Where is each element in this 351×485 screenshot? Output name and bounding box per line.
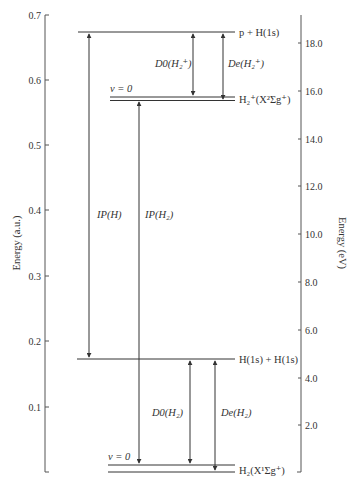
right-tick-18: 18.0 — [305, 38, 323, 49]
label-IP-H2: IP(H₂) — [144, 209, 174, 221]
label-H2plus: H₂⁺(X²Σg⁺) — [239, 94, 291, 106]
label-De-H2: De(H₂) — [220, 407, 252, 419]
right-tick-4: 4.0 — [305, 373, 318, 384]
left-tick-0.3: 0.3 — [29, 271, 42, 282]
right-tick-10: 10.0 — [305, 229, 323, 240]
energy-level-diagram: 0.7 0.6 0.5 0.4 0.3 0.2 0.1 Energy (a.u.… — [0, 0, 351, 485]
left-tick-0.2: 0.2 — [29, 336, 42, 347]
label-D0-H2: D0(H₂) — [151, 407, 184, 419]
left-tick-0.6: 0.6 — [29, 75, 42, 86]
left-tick-0.7: 0.7 — [29, 10, 42, 21]
left-axis-title: Energy (a.u.) — [11, 215, 23, 270]
energy-levels: p + H(1s) v = 0 H₂⁺(X²Σg⁺) H(1s) + H(1s)… — [77, 27, 298, 477]
label-v0-upper: v = 0 — [110, 83, 133, 94]
label-H2: H₂(X¹Σg⁺) — [239, 465, 285, 477]
label-IP-H: IP(H) — [96, 209, 122, 221]
left-axis: 0.7 0.6 0.5 0.4 0.3 0.2 0.1 Energy (a.u.… — [11, 10, 49, 472]
right-tick-12: 12.0 — [305, 181, 323, 192]
label-H1s-H1s: H(1s) + H(1s) — [239, 354, 298, 366]
right-tick-6: 6.0 — [305, 325, 318, 336]
right-tick-16: 16.0 — [305, 86, 323, 97]
label-D0-H2plus: D0(H₂⁺) — [154, 58, 192, 70]
right-axis: 18.0 16.0 14.0 12.0 10.0 8.0 6.0 4.0 2.0… — [297, 15, 348, 472]
left-tick-0.4: 0.4 — [29, 205, 42, 216]
right-tick-8: 8.0 — [305, 277, 318, 288]
left-tick-0.5: 0.5 — [29, 140, 42, 151]
label-De-H2plus: De(H₂⁺) — [227, 58, 265, 70]
label-p-H1s: p + H(1s) — [239, 27, 280, 39]
left-tick-0.1: 0.1 — [29, 402, 42, 413]
label-v0-lower: v = 0 — [108, 451, 131, 462]
right-tick-2: 2.0 — [305, 420, 318, 431]
right-axis-title: Energy (eV) — [336, 217, 348, 269]
right-tick-14: 14.0 — [305, 134, 323, 145]
